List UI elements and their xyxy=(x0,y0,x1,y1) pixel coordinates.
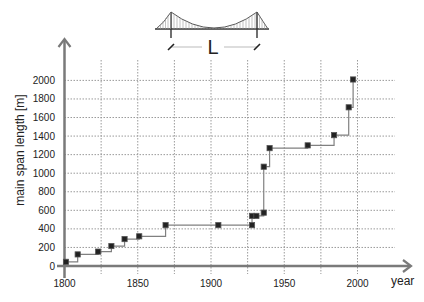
x-tick-label: 1800 xyxy=(53,278,76,289)
data-point-marker xyxy=(122,236,127,241)
y-tick-label: 1600 xyxy=(33,112,56,123)
y-axis-title: main span length [m] xyxy=(13,94,27,205)
data-point-marker xyxy=(137,234,142,239)
bridge-side-cable-left xyxy=(156,12,171,29)
y-tick-label: 1400 xyxy=(33,131,56,142)
data-point-marker xyxy=(216,223,221,228)
data-point-marker xyxy=(63,259,68,264)
y-tick-label: 2000 xyxy=(33,75,56,86)
gridlines xyxy=(65,60,396,274)
span-length-label: L xyxy=(207,36,218,58)
y-tick-label: 1000 xyxy=(33,168,56,179)
data-point-marker xyxy=(305,143,310,148)
data-point-marker xyxy=(75,252,80,257)
data-point-marker xyxy=(261,210,266,215)
y-tick-label: 1800 xyxy=(33,93,56,104)
data-point-marker xyxy=(163,223,168,228)
x-tick-label: 2000 xyxy=(346,278,369,289)
data-point-marker xyxy=(261,164,266,169)
y-tick-label: 800 xyxy=(38,186,55,197)
data-point-marker xyxy=(109,243,114,248)
x-tick-label: 1950 xyxy=(273,278,296,289)
data-point-marker xyxy=(351,77,356,82)
data-point-marker xyxy=(267,146,272,151)
x-tick-label: 1850 xyxy=(127,278,150,289)
y-tick-label: 0 xyxy=(49,261,55,272)
axes xyxy=(57,39,411,278)
data-point-marker xyxy=(249,223,254,228)
y-tick-label: 1200 xyxy=(33,149,56,160)
data-series xyxy=(63,77,355,265)
bridge-side-cable-right xyxy=(257,12,268,29)
y-tick-label: 400 xyxy=(38,223,55,234)
tick-labels: 0200400600800100012001400160018002000180… xyxy=(33,75,369,289)
data-point-marker xyxy=(96,249,101,254)
step-line xyxy=(66,79,353,261)
y-tick-label: 200 xyxy=(38,242,55,253)
y-tick-label: 600 xyxy=(38,205,55,216)
bridge-main-cable xyxy=(171,12,257,28)
data-point-marker xyxy=(331,133,336,138)
data-point-marker xyxy=(346,105,351,110)
span-length-chart: 0200400600800100012001400160018002000180… xyxy=(0,0,424,302)
x-tick-label: 1900 xyxy=(200,278,223,289)
x-axis-title: year xyxy=(391,274,414,288)
data-point-marker xyxy=(254,213,259,218)
